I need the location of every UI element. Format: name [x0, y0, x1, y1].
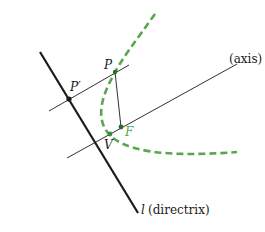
label-p-prime: P′	[69, 80, 81, 94]
point-f	[119, 125, 124, 130]
parabola-diagram: P P′ F V (axis) l (directrix)	[0, 0, 265, 232]
label-directrix: (directrix)	[148, 203, 210, 217]
point-v	[108, 132, 113, 137]
point-p-prime	[66, 96, 71, 101]
pf-segment	[115, 72, 121, 127]
label-axis: (axis)	[229, 52, 262, 66]
label-directrix-l: l	[141, 203, 145, 217]
label-f: F	[124, 125, 134, 139]
point-p	[113, 70, 117, 74]
directrix-line	[40, 52, 138, 213]
label-v: V	[104, 138, 114, 152]
axis-line	[67, 64, 237, 158]
label-p: P	[103, 58, 113, 72]
parabola-curve	[101, 14, 237, 154]
